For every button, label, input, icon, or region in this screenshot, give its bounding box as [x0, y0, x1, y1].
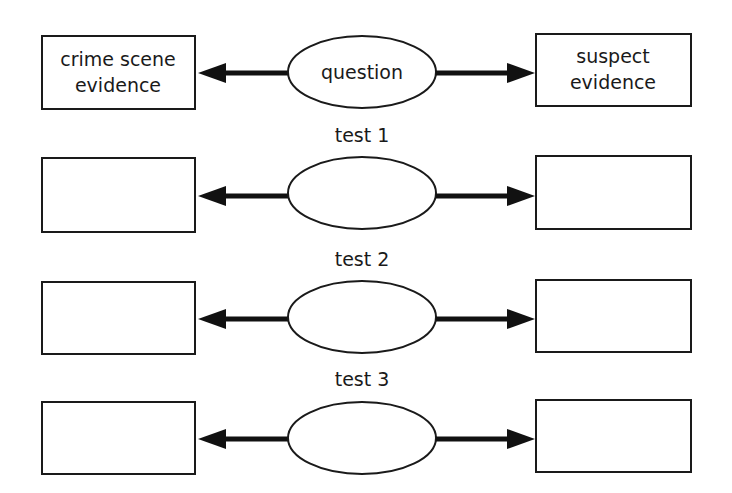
arrow-left-icon [198, 186, 289, 206]
row-test-2: test 2 [42, 248, 691, 354]
suspect-evidence-label-line1: suspect [576, 45, 650, 67]
row-question: crime scene evidence question suspect ev… [42, 34, 691, 109]
arrow-left-icon [198, 429, 289, 449]
crime-scene-evidence-label-line2: evidence [75, 74, 161, 96]
row-test-3: test 3 [42, 368, 691, 474]
row-test-1: test 1 [42, 124, 691, 232]
test-1-crime-scene-box [42, 158, 195, 232]
test-1-suspect-box [536, 156, 691, 229]
crime-scene-evidence-label-line1: crime scene [60, 48, 176, 70]
test-2-oval [288, 281, 436, 353]
question-label: question [321, 61, 403, 83]
test-3-crime-scene-box [42, 402, 195, 474]
arrow-right-icon [436, 429, 535, 449]
test-2-crime-scene-box [42, 282, 195, 354]
test-1-oval [288, 157, 436, 229]
test-3-label: test 3 [335, 368, 390, 390]
suspect-evidence-label-line2: evidence [570, 71, 656, 93]
arrow-left-icon [198, 63, 289, 83]
test-3-oval [288, 402, 436, 474]
arrow-left-icon [198, 309, 289, 329]
evidence-comparison-diagram: crime scene evidence question suspect ev… [0, 0, 732, 493]
test-3-suspect-box [536, 400, 691, 472]
test-2-label: test 2 [335, 248, 390, 270]
arrow-right-icon [436, 309, 535, 329]
test-1-label: test 1 [335, 124, 390, 146]
test-2-suspect-box [536, 280, 691, 352]
arrow-right-icon [436, 186, 535, 206]
arrow-right-icon [436, 63, 535, 83]
crime-scene-evidence-box [42, 36, 195, 109]
